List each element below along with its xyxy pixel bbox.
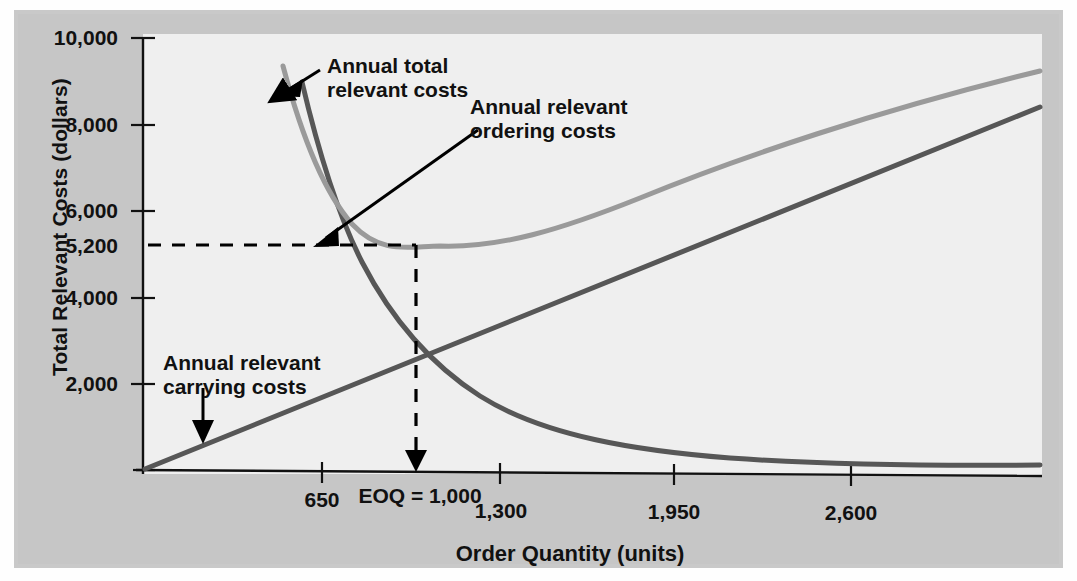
arrowhead-ordering-costs-icon [313,227,339,247]
annotation-carrying-costs: Annual relevant carrying costs [163,351,321,398]
series-carrying-costs [145,107,1040,469]
chart-svg [0,0,1077,581]
eoq-arrowhead-icon [405,450,427,472]
y-tick-label-4000: 4,000 [8,286,118,310]
x-tick-label-1950: 1,950 [614,500,734,524]
y-tick-label-2000: 2,000 [8,372,118,396]
annotation-total-relevant-costs: Annual total relevant costs [327,54,468,101]
eoq-label: EOQ = 1,000 [330,484,510,508]
x-axis-title: Order Quantity (units) [330,541,810,567]
y-tick-label-5200: 5,200 [8,234,118,258]
leader-line-ordering-costs [326,130,478,238]
y-tick-label-10000: 10,000 [8,26,118,50]
y-tick-label-6000: 6,000 [8,199,118,223]
annotation-ordering-costs: Annual relevant ordering costs [470,95,628,142]
eoq-chart-figure: Total Relevant Costs (dollars) 10,000 8,… [0,0,1077,581]
y-tick-label-8000: 8,000 [8,113,118,137]
x-axis-line [136,470,1042,476]
series-ordering-costs [302,82,1040,465]
x-tick-label-2600: 2,600 [791,501,911,525]
